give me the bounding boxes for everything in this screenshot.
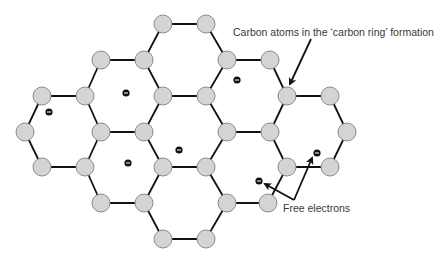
carbon-atom-icon bbox=[154, 158, 172, 176]
carbon-pointer-arrow bbox=[290, 39, 311, 84]
carbon-atom-icon bbox=[261, 51, 279, 69]
carbon-atom-icon bbox=[16, 123, 34, 141]
carbon-atom-icon bbox=[135, 51, 153, 69]
carbon-atom-icon bbox=[278, 158, 296, 176]
carbon-atom-icon bbox=[197, 230, 215, 248]
electron-pointer-arrow bbox=[294, 158, 312, 200]
electron-icon bbox=[255, 177, 262, 184]
carbon-atom-icon bbox=[92, 123, 110, 141]
carbon-atom-icon bbox=[197, 87, 215, 105]
carbon-atom-icon bbox=[92, 51, 110, 69]
carbon-atom-icon bbox=[76, 158, 94, 176]
carbon-atom-icon bbox=[278, 87, 296, 105]
electron-icon bbox=[233, 76, 240, 83]
carbon-atoms-label: Carbon atoms in the ‘carbon ring’ format… bbox=[233, 26, 434, 38]
carbon-atom-icon bbox=[135, 123, 153, 141]
electron-icon bbox=[45, 108, 52, 115]
carbon-atom-icon bbox=[218, 51, 236, 69]
carbon-atom-icon bbox=[197, 158, 215, 176]
electron-icon bbox=[175, 146, 182, 153]
free-electrons-label: Free electrons bbox=[283, 202, 350, 214]
electron-icon bbox=[122, 89, 129, 96]
carbon-atom-icon bbox=[76, 87, 94, 105]
carbon-atom-icon bbox=[197, 15, 215, 33]
carbon-atom-icon bbox=[92, 194, 110, 212]
electron-icon bbox=[313, 149, 320, 156]
carbon-atom-icon bbox=[135, 194, 153, 212]
carbon-atom-icon bbox=[33, 87, 51, 105]
carbon-atom-icon bbox=[33, 158, 51, 176]
carbon-atom-icon bbox=[154, 15, 172, 33]
carbon-atom-icon bbox=[321, 87, 339, 105]
electron-icon bbox=[124, 159, 131, 166]
carbon-atom-icon bbox=[218, 123, 236, 141]
carbon-atom-icon bbox=[218, 194, 236, 212]
carbon-atom-icon bbox=[321, 158, 339, 176]
carbon-atom-icon bbox=[154, 87, 172, 105]
carbon-atom-icon bbox=[261, 123, 279, 141]
carbon-atom-icon bbox=[338, 123, 356, 141]
carbon-atom-icon bbox=[259, 194, 277, 212]
carbon-atom-icon bbox=[154, 230, 172, 248]
